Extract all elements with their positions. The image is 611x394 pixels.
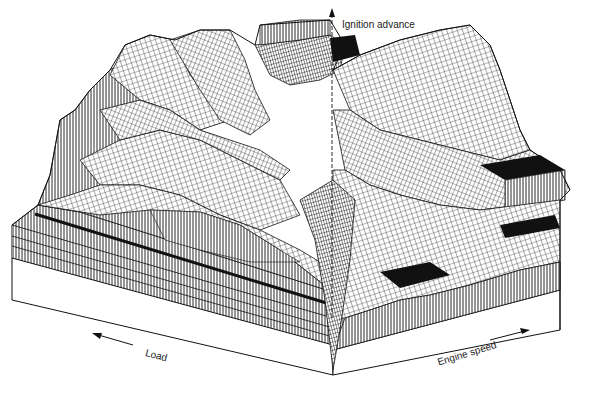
ignition-map-figure: Ignition advance Load Engine speed: [0, 0, 611, 394]
ignition-advance-label: Ignition advance: [342, 19, 415, 30]
load-axis-arrow: [92, 333, 133, 345]
arrow-up-icon: [329, 8, 335, 17]
surface-plot: [0, 0, 611, 394]
arrow-left-icon: [92, 333, 102, 339]
